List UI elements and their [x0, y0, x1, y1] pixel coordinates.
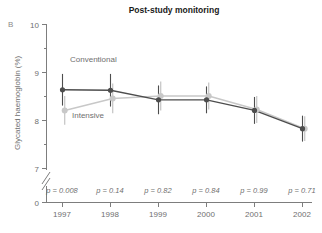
- data-point-marker: [108, 88, 113, 93]
- x-tick-label-2000: 2000: [197, 210, 215, 219]
- data-point-marker: [62, 107, 68, 113]
- chart-title: Post-study monitoring: [129, 5, 220, 15]
- y-tick-label-8: 8: [35, 117, 40, 126]
- data-point-marker: [300, 126, 305, 131]
- y-tick-label-0: 0: [35, 199, 40, 208]
- x-axis-ticks: [63, 203, 303, 208]
- p-value-1999: p = 0.82: [143, 186, 172, 195]
- y-axis-ticks: 10 9 8 7 0: [30, 21, 46, 208]
- p-value-1998: p = 0.14: [95, 186, 123, 195]
- data-point-marker: [110, 95, 116, 101]
- post-study-monitoring-chart: Post-study monitoring B Glycated haemogl…: [0, 0, 322, 233]
- y-tick-label-9: 9: [35, 69, 40, 78]
- p-value-row: p = 0.008 p = 0.14 p = 0.82 p = 0.84 p =…: [45, 186, 315, 195]
- series-label-conventional: Conventional: [70, 55, 117, 64]
- x-tick-label-2002: 2002: [293, 210, 311, 219]
- x-axis-labels: 1997 1998 1999 2000 2001 2002: [53, 210, 311, 219]
- x-tick-label-2001: 2001: [245, 210, 263, 219]
- y-tick-label-7: 7: [35, 165, 40, 174]
- p-value-2001: p = 0.99: [239, 186, 268, 195]
- x-tick-label-1998: 1998: [101, 210, 119, 219]
- panel-letter: B: [8, 20, 13, 29]
- data-point-marker: [204, 97, 209, 102]
- x-tick-label-1997: 1997: [53, 210, 71, 219]
- data-point-marker: [60, 87, 65, 92]
- y-axis-title: Glycated haemoglobin (%): [13, 55, 22, 150]
- chart-figure: Post-study monitoring B Glycated haemogl…: [0, 0, 322, 233]
- p-value-2002: p = 0.71: [287, 186, 315, 195]
- series-conventional-markers: [60, 87, 305, 131]
- data-point-marker: [252, 108, 257, 113]
- p-value-2000: p = 0.84: [191, 186, 219, 195]
- x-tick-label-1999: 1999: [149, 210, 167, 219]
- series-label-intensive: Intensive: [72, 111, 105, 120]
- data-point-marker: [156, 97, 161, 102]
- p-value-1997: p = 0.008: [45, 186, 78, 195]
- y-tick-label-10: 10: [30, 21, 39, 30]
- series-conventional-error-bars: [63, 74, 303, 142]
